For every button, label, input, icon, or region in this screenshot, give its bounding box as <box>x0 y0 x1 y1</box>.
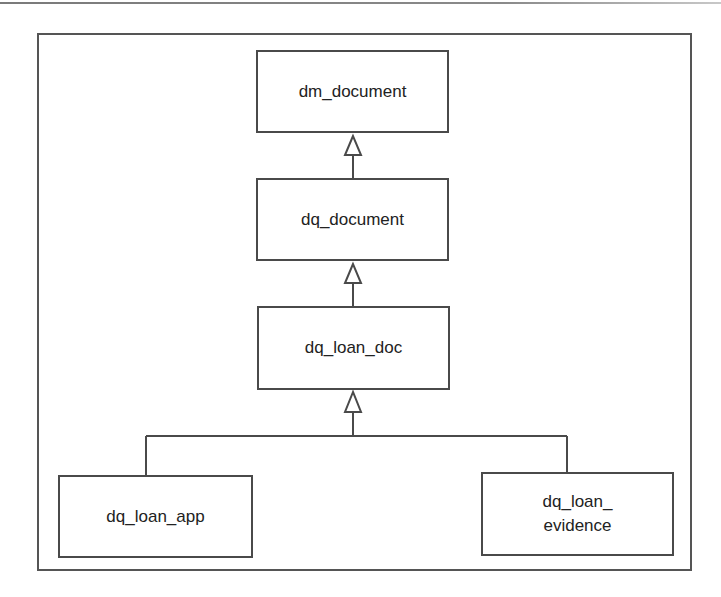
class-node-dq-document: dq_document <box>256 178 449 261</box>
class-node-dq-loan-evidence: dq_loan_ evidence <box>481 472 674 556</box>
class-node-label: dm_document <box>299 80 407 104</box>
top-rule <box>0 2 721 4</box>
class-node-label: dq_loan_app <box>106 505 204 529</box>
class-node-label: dq_document <box>301 208 404 232</box>
class-node-dq-loan-app: dq_loan_app <box>58 475 253 558</box>
class-node-label: dq_loan_doc <box>305 336 402 360</box>
class-node-label: dq_loan_ evidence <box>543 490 613 538</box>
class-node-dq-loan-doc: dq_loan_doc <box>257 306 450 390</box>
class-node-dm-document: dm_document <box>256 50 449 133</box>
